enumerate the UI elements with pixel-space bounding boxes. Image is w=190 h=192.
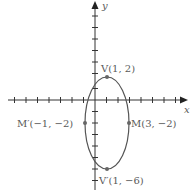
x-axis-label: x [184,104,190,115]
label-m: M(3, −2) [131,118,177,129]
y-axis-label: y [101,0,108,11]
x-axis: x [8,97,190,116]
label-v-prime: V′(1, −6) [98,175,144,186]
y-axis-arrow-icon [92,1,99,9]
label-m-prime: M′(−1, −2) [17,118,73,129]
ellipse-curve [85,77,129,169]
minor-m-prime-point [83,121,87,125]
y-axis: y [92,0,109,190]
vertex-v-point [105,75,109,79]
x-axis-arrow-icon [180,97,188,104]
label-v: V(1, 2) [100,63,135,74]
ellipse-figure: x y V(1, 2) V′(1, −6) M(3, −2) [0,0,190,192]
vertex-v-prime-point [105,167,109,171]
